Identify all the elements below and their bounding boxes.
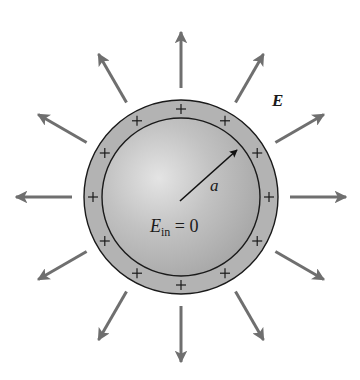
field-arrow	[99, 291, 127, 339]
field-arrow	[275, 252, 323, 280]
radius-label: a	[210, 176, 219, 195]
inner-sphere	[102, 118, 260, 276]
field-label: E	[271, 91, 283, 110]
field-arrow	[38, 115, 86, 143]
charged-sphere-diagram: a Ein = 0 E	[0, 0, 360, 380]
field-arrow	[99, 54, 127, 102]
inside-field-sub: in	[161, 225, 170, 239]
field-arrow	[275, 115, 323, 143]
inside-field-value: = 0	[170, 216, 198, 236]
field-arrow	[38, 252, 86, 280]
inside-field-label: Ein = 0	[149, 216, 199, 239]
field-arrow	[236, 54, 264, 102]
inside-field-E: E	[149, 216, 161, 236]
field-arrow	[236, 291, 264, 339]
